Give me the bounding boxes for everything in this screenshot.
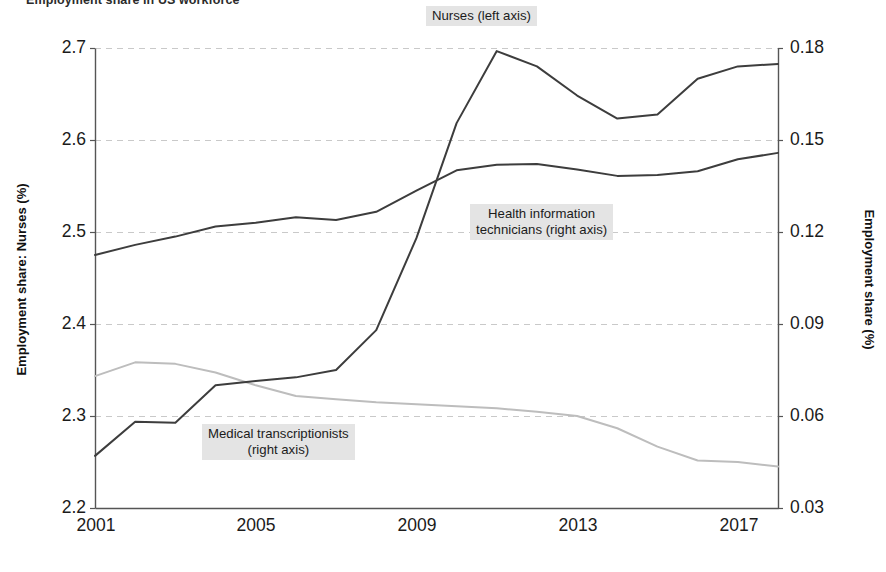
chart-figure: Employment share in US workforce Employm…	[0, 0, 886, 572]
series-line-medical-transcriptionists-right-axis	[95, 362, 778, 466]
series-label-health-information-technicians: Health information technicians (right ax…	[470, 204, 613, 240]
series-label-nurses: Nurses (left axis)	[426, 6, 537, 26]
series-line-nurses-left-axis	[95, 153, 778, 255]
series-label-medical-transcriptionists: Medical transcriptionists (right axis)	[202, 424, 355, 460]
series-line-health-information-technicians-right-axis	[95, 51, 778, 456]
plot-area	[0, 0, 886, 572]
